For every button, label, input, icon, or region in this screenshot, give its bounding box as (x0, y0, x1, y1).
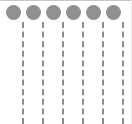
dashed-connector-line (62, 22, 64, 124)
top-border-divider (0, 0, 132, 1)
node-circle (66, 5, 81, 20)
dashed-connector-line (122, 22, 124, 124)
node-circle (86, 5, 101, 20)
diagram-canvas (0, 0, 132, 124)
dashed-connector-line (82, 22, 84, 124)
node-circle (6, 5, 21, 20)
right-border-divider (131, 0, 132, 124)
node-circle (46, 5, 61, 20)
dashed-connector-line (42, 22, 44, 124)
dashed-connector-line (102, 22, 104, 124)
node-circle (106, 5, 121, 20)
node-circle (26, 5, 41, 20)
dashed-connector-line (22, 22, 24, 124)
